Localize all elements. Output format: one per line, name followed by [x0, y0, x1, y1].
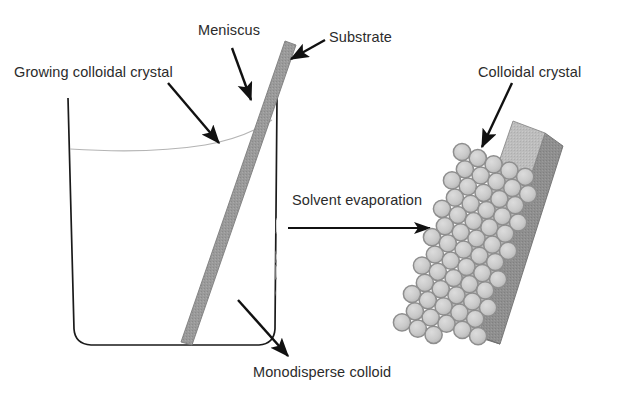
arrow-monodisperse-colloid	[238, 300, 288, 356]
colloidal-crystal-slab	[393, 121, 563, 345]
colloid-sphere	[200, 150, 215, 165]
colloid-sphere	[147, 281, 161, 295]
colloid-sphere	[238, 293, 252, 307]
colloid-sphere	[168, 263, 182, 277]
colloid-sphere	[125, 298, 139, 312]
colloid-sphere	[208, 186, 223, 201]
label-monodisperse-colloid: Monodisperse colloid	[253, 364, 391, 380]
label-meniscus: Meniscus	[198, 22, 260, 38]
colloid-sphere	[403, 285, 420, 302]
colloid-sphere	[194, 200, 208, 214]
colloid-sphere	[267, 265, 281, 279]
colloid-sphere	[229, 265, 243, 279]
colloid-sphere	[94, 304, 108, 318]
colloid-sphere	[172, 224, 186, 238]
colloid-sphere	[82, 196, 96, 210]
colloid-sphere	[453, 143, 470, 160]
colloid-sphere	[215, 172, 230, 187]
substrate-bar-in-beaker	[181, 41, 296, 345]
colloid-sphere	[110, 228, 124, 242]
colloid-sphere	[128, 214, 142, 228]
colloidal-crystal-diagram: Growing colloidal crystal Meniscus Subst…	[0, 0, 617, 399]
colloid-sphere	[425, 326, 442, 343]
colloid-sphere	[181, 255, 195, 269]
colloid-sphere	[261, 286, 275, 300]
colloid-sphere	[264, 250, 278, 264]
colloid-sphere	[165, 318, 179, 332]
colloid-sphere	[443, 172, 460, 189]
colloid-sphere	[206, 137, 221, 152]
colloid-sphere	[242, 258, 256, 272]
colloid-sphere	[255, 274, 269, 288]
colloid-sphere	[257, 231, 271, 245]
colloid-sphere	[150, 243, 164, 257]
colloid-sphere	[409, 320, 426, 337]
colloid-sphere	[470, 328, 487, 345]
colloid-sphere	[88, 245, 102, 259]
arrow-growing-colloidal-crystal	[168, 83, 219, 143]
colloid-sphere	[162, 209, 176, 223]
colloid-sphere	[433, 200, 450, 217]
colloid-sphere	[178, 292, 192, 306]
colloid-sphere	[145, 192, 159, 206]
beaker-scene	[68, 41, 296, 345]
colloid-sphere	[226, 320, 240, 334]
label-colloidal-crystal: Colloidal crystal	[478, 64, 581, 80]
colloid-sphere	[156, 308, 170, 322]
colloid-sphere	[97, 206, 111, 220]
colloid-sphere	[106, 259, 120, 273]
arrow-meniscus	[232, 48, 251, 100]
colloid-sphere	[81, 179, 95, 193]
colloid-sphere	[454, 321, 471, 338]
colloid-sphere	[179, 187, 193, 201]
colloid-sphere	[79, 223, 93, 237]
colloid-sphere	[201, 174, 216, 189]
colloid-sphere	[114, 189, 128, 203]
colloid-sphere	[119, 251, 133, 265]
colloid-sphere	[413, 257, 430, 274]
colloid-sphere	[252, 215, 266, 229]
colloid-sphere	[423, 229, 440, 246]
label-solvent-evaporation: Solvent evaporation	[292, 192, 422, 208]
colloid-sphere	[103, 321, 117, 335]
meniscus-curve	[70, 120, 272, 151]
colloid-sphere	[228, 146, 243, 161]
colloid-sphere	[134, 324, 148, 338]
arrow-substrate	[291, 40, 325, 59]
colloid-sphere	[85, 283, 99, 297]
colloid-sphere	[269, 219, 283, 233]
label-growing-colloidal-crystal: Growing colloidal crystal	[14, 64, 173, 80]
colloid-sphere	[217, 310, 231, 324]
colloid-sphere	[116, 289, 130, 303]
colloid-sphere	[137, 270, 151, 284]
colloid-sphere	[234, 239, 248, 253]
colloid-sphere	[221, 160, 236, 175]
colloid-sphere	[75, 265, 89, 279]
colloid-sphere	[209, 179, 223, 193]
label-substrate: Substrate	[329, 29, 392, 45]
colloid-sphere	[393, 314, 410, 331]
colloid-sphere	[141, 237, 155, 251]
colloid-sphere	[261, 201, 275, 215]
colloid-sphere	[207, 162, 222, 177]
colloid-sphere	[214, 148, 229, 163]
